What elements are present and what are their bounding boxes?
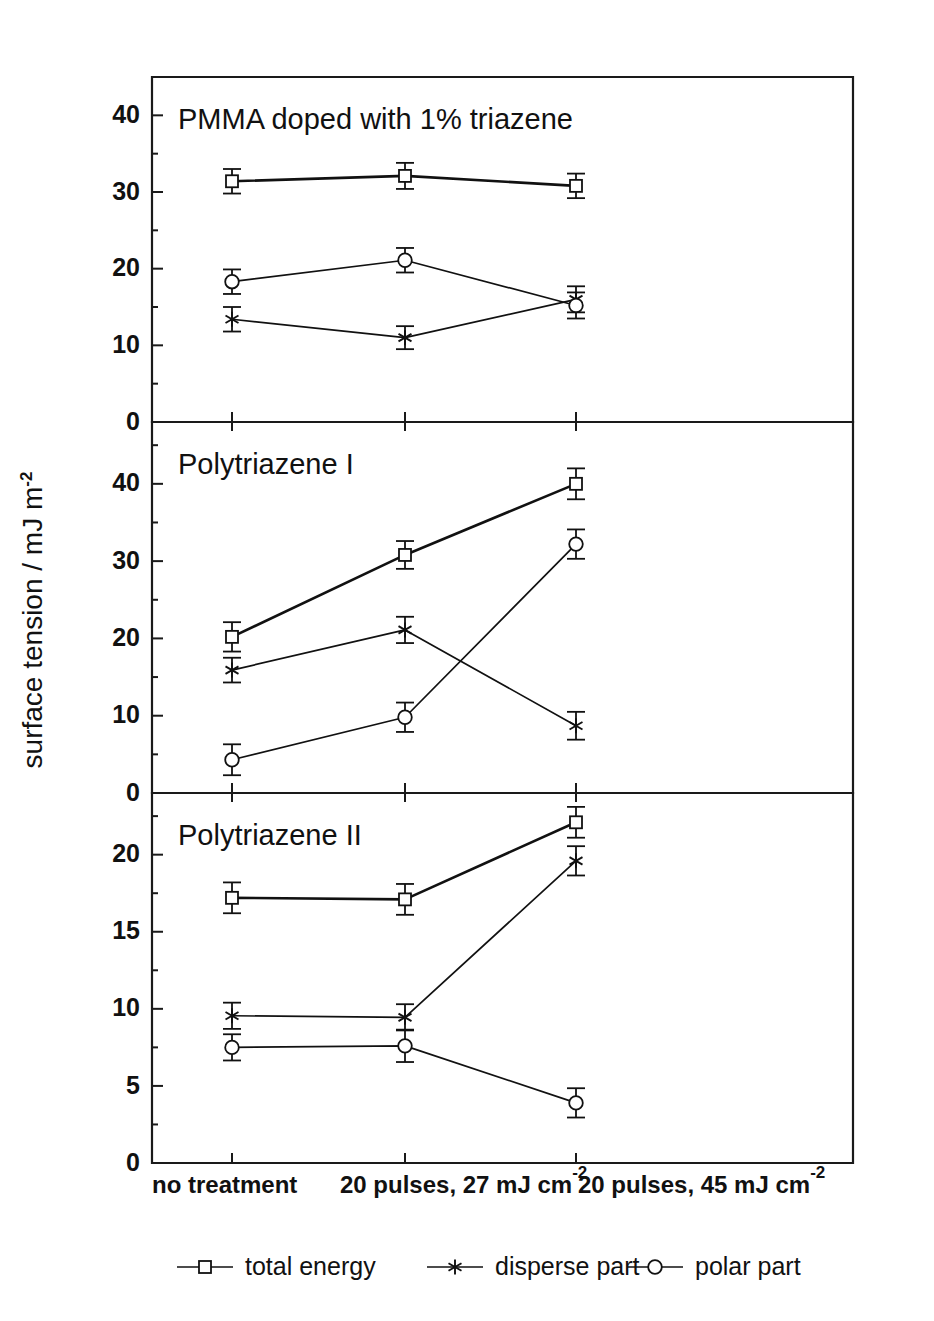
marker-circle	[398, 1039, 412, 1053]
x-tick-label-text: 20 pulses, 27 mJ cm	[340, 1171, 572, 1198]
marker-square	[399, 549, 411, 561]
y-tick-label: 0	[126, 407, 140, 435]
marker-asterisk	[570, 718, 583, 733]
marker-circle	[569, 537, 583, 551]
series-disperse-part	[223, 286, 585, 349]
marker-asterisk	[399, 622, 412, 637]
y-tick-label: 10	[112, 330, 140, 358]
y-axis-title-superscript: -2	[17, 472, 36, 487]
marker-circle	[225, 1041, 239, 1055]
panels-group: 010203040PMMA doped with 1% triazene0102…	[112, 77, 853, 1176]
legend-marker-circle	[648, 1260, 662, 1274]
marker-circle	[398, 253, 412, 267]
x-axis-tick-labels: no treatment20 pulses, 27 mJ cm-220 puls…	[152, 1163, 825, 1198]
y-tick-label: 40	[112, 100, 140, 128]
panel-title: Polytriazene I	[178, 448, 354, 480]
marker-square	[399, 893, 411, 905]
y-tick-label: 30	[112, 546, 140, 574]
figure-container: surface tension / mJ m-2 010203040PMMA d…	[0, 0, 934, 1321]
y-tick-label: 15	[112, 916, 140, 944]
y-tick-label: 20	[112, 839, 140, 867]
marker-square	[226, 892, 238, 904]
marker-circle	[569, 299, 583, 313]
legend-marker-square	[199, 1261, 211, 1273]
marker-square	[570, 478, 582, 490]
series-polyline	[232, 544, 576, 760]
y-tick-label: 20	[112, 253, 140, 281]
marker-asterisk	[226, 663, 239, 678]
x-tick-label-text: 20 pulses, 45 mJ cm	[578, 1171, 810, 1198]
series-disperse-part	[223, 846, 585, 1030]
series-polar-part	[223, 529, 585, 775]
marker-square	[570, 180, 582, 192]
x-tick-label-2: 20 pulses, 27 mJ cm-2	[340, 1163, 587, 1198]
y-tick-label: 40	[112, 468, 140, 496]
chart-legend: total energydisperse partpolar part	[177, 1252, 801, 1280]
series-polar-part	[223, 1030, 585, 1118]
panel-title: PMMA doped with 1% triazene	[178, 103, 573, 135]
y-tick-label: 10	[112, 993, 140, 1021]
series-polar-part	[223, 248, 585, 319]
marker-square	[226, 631, 238, 643]
y-axis-title-text: surface tension / mJ m	[17, 487, 48, 769]
series-total-energy	[223, 163, 585, 198]
y-axis-title: surface tension / mJ m-2	[17, 472, 48, 769]
marker-circle	[225, 275, 239, 289]
panel-3: 05101520Polytriazene II	[112, 793, 853, 1176]
marker-circle	[398, 710, 412, 724]
legend-label: total energy	[245, 1252, 376, 1280]
surface-tension-multi-panel-chart: surface tension / mJ m-2 010203040PMMA d…	[0, 0, 934, 1321]
series-polyline	[232, 299, 576, 337]
svg-text:surface tension / mJ m-2: surface tension / mJ m-2	[17, 472, 48, 769]
x-tick-label-text: no treatment	[152, 1171, 297, 1198]
series-total-energy	[223, 468, 585, 651]
marker-circle	[569, 1096, 583, 1110]
legend-item-disperse-part: disperse part	[427, 1252, 640, 1280]
y-tick-label: 0	[126, 778, 140, 806]
y-tick-label: 0	[126, 1148, 140, 1176]
marker-square	[570, 816, 582, 828]
x-tick-label-3: 20 pulses, 45 mJ cm-2	[578, 1163, 825, 1198]
y-tick-label: 20	[112, 623, 140, 651]
panel-title: Polytriazene II	[178, 819, 362, 851]
series-polyline	[232, 1046, 576, 1103]
legend-label: polar part	[695, 1252, 801, 1280]
legend-item-total-energy: total energy	[177, 1252, 376, 1280]
y-tick-label: 30	[112, 177, 140, 205]
marker-square	[226, 175, 238, 187]
panel-1: 010203040PMMA doped with 1% triazene	[112, 77, 853, 435]
panel-2: 010203040Polytriazene I	[112, 422, 853, 806]
x-tick-label-1: no treatment	[152, 1171, 297, 1198]
marker-circle	[225, 753, 239, 767]
legend-label: disperse part	[495, 1252, 640, 1280]
x-tick-label-superscript: -2	[810, 1163, 825, 1182]
y-tick-label: 5	[126, 1071, 140, 1099]
marker-square	[399, 170, 411, 182]
y-tick-label: 10	[112, 700, 140, 728]
legend-item-polar-part: polar part	[627, 1252, 801, 1280]
